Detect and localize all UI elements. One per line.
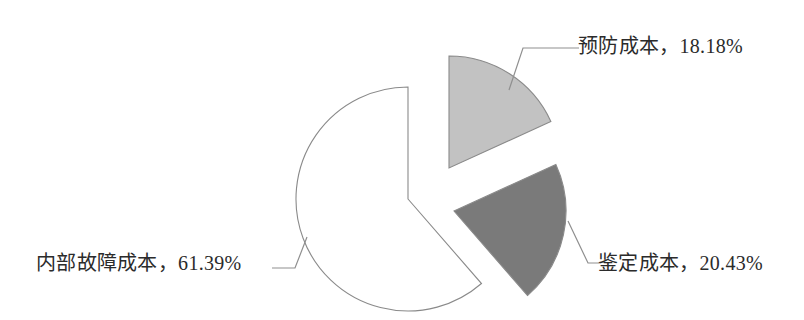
pie-label-appraisal: 鉴定成本，20.43% <box>598 253 763 273</box>
pie-label-prevention: 预防成本，18.18% <box>578 36 743 56</box>
leader-line-appraisal <box>568 221 599 263</box>
leader-line-internal-failure <box>272 237 307 268</box>
pie-slice-prevention[interactable] <box>449 56 551 168</box>
pie-label-internal-failure: 内部故障成本，61.39% <box>36 253 242 273</box>
pie-chart: 预防成本，18.18% 鉴定成本，20.43% 内部故障成本，61.39% <box>0 0 804 320</box>
